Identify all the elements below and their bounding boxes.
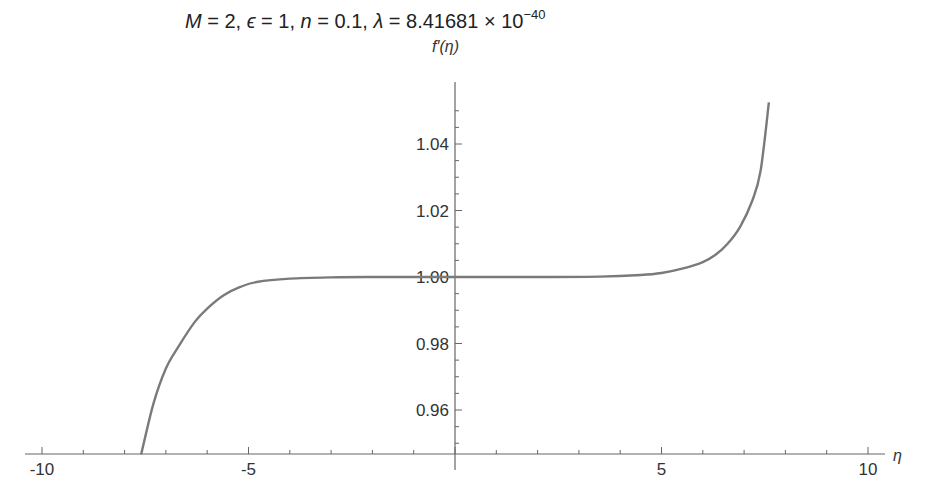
title-M: M xyxy=(185,10,202,32)
chart-title: M = 2, ϵ = 1, n = 0.1, λ = 8.41681 × 10−… xyxy=(185,7,545,32)
x-tick-label: -5 xyxy=(241,460,256,479)
x-tick-label: -10 xyxy=(30,460,55,479)
x-ticks: -10-5510 xyxy=(30,447,878,479)
x-tick-label: 10 xyxy=(859,460,878,479)
y-tick-label: 1.02 xyxy=(416,202,449,221)
x-tick-label: 5 xyxy=(657,460,666,479)
title-exponent: −40 xyxy=(523,7,545,22)
x-axis-label: η xyxy=(893,447,902,464)
y-tick-label: 0.98 xyxy=(416,335,449,354)
chart: M = 2, ϵ = 1, n = 0.1, λ = 8.41681 × 10−… xyxy=(0,0,929,494)
y-axis-label: f′(η) xyxy=(432,38,459,55)
y-tick-label: 1.04 xyxy=(416,135,449,154)
y-tick-label: 0.96 xyxy=(416,401,449,420)
